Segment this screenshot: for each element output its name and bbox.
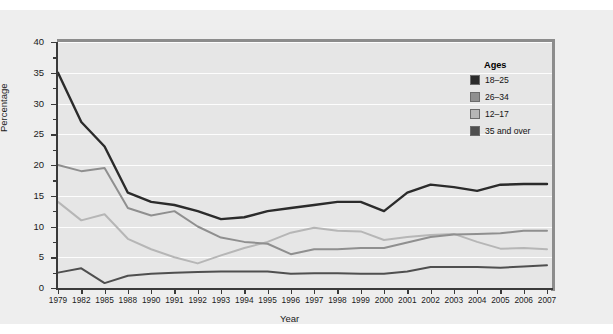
x-axis-tick [58,289,59,294]
series-line [58,202,547,264]
y-axis-tick [53,242,57,243]
x-axis-tick [477,289,478,294]
y-axis-tick [53,119,57,120]
legend-swatch-icon [470,75,480,85]
y-axis-tick-label: 25 [18,128,44,139]
y-axis-tick-label: 10 [18,221,44,232]
y-axis-tick [51,104,56,105]
legend-item-label: 35 and over [485,126,530,136]
legend-title: Ages [484,60,530,70]
legend-swatch-icon [470,126,480,136]
legend-item-label: 18–25 [485,75,509,85]
x-axis-tick [221,289,222,294]
y-axis-tick-label: 5 [18,251,44,262]
y-axis-tick [51,165,56,166]
x-axis-tick [454,289,455,294]
x-axis-title: Year [280,313,299,324]
y-axis-tick [53,88,57,89]
x-axis-tick [151,289,152,294]
x-axis-tick [431,289,432,294]
x-axis-tick [81,289,82,294]
series-line [58,265,547,283]
x-axis-tick [361,289,362,294]
x-axis-tick [500,289,501,294]
x-axis-tick [407,289,408,294]
x-axis-tick [547,289,548,294]
y-axis-tick-label: 35 [18,67,44,78]
legend-item-label: 26–34 [485,92,509,102]
x-axis-tick-label: 2007 [530,295,564,305]
y-axis-tick [51,227,56,228]
x-axis-line [56,288,553,290]
legend-item[interactable]: 35 and over [470,125,530,136]
legend-item[interactable]: 26–34 [470,91,530,102]
y-axis-tick [53,180,57,181]
y-axis-tick [53,211,57,212]
y-axis-tick-label: 20 [18,159,44,170]
x-axis-tick [314,289,315,294]
legend-item-label: 12–17 [485,109,509,119]
x-axis-tick [128,289,129,294]
y-axis-line [56,42,58,289]
x-axis-tick [244,289,245,294]
y-axis-title: Percentage [0,83,9,132]
x-axis-tick [268,289,269,294]
x-axis-tick [174,289,175,294]
legend-swatch-icon [470,92,480,102]
y-axis-tick [53,150,57,151]
legend-entries: 18–2526–3412–1735 and over [470,74,530,136]
y-axis-tick [51,196,56,197]
y-axis-tick [51,257,56,258]
y-axis-tick [53,57,57,58]
chart-figure: 0510152025303540 19791982198519881990199… [0,0,613,334]
y-axis-tick [53,273,57,274]
legend-item[interactable]: 18–25 [470,74,530,85]
y-axis-tick [51,288,56,289]
legend-swatch-icon [470,109,480,119]
chart-legend: Ages 18–2526–3412–1735 and over [470,60,530,142]
x-axis-tick [384,289,385,294]
y-axis-tick-label: 0 [18,282,44,293]
x-axis-tick [337,289,338,294]
x-axis-tick [105,289,106,294]
y-axis-tick-label: 15 [18,190,44,201]
y-axis-tick [51,134,56,135]
y-axis-tick-label: 40 [18,36,44,47]
x-axis-tick [524,289,525,294]
x-axis-tick [291,289,292,294]
x-axis-tick [198,289,199,294]
y-axis-tick-label: 30 [18,98,44,109]
legend-item[interactable]: 12–17 [470,108,530,119]
y-axis-tick [51,42,56,43]
y-axis-tick [51,73,56,74]
